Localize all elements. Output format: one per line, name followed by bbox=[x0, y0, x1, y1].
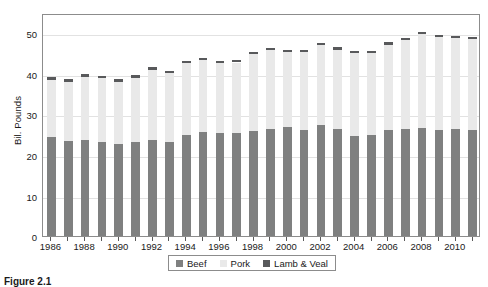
bar-segment-beef bbox=[300, 130, 309, 236]
bar-segment-beef bbox=[81, 140, 90, 236]
bar-segment-beef bbox=[418, 128, 427, 236]
bar-1995 bbox=[199, 58, 208, 236]
bar-segment-beef bbox=[266, 129, 275, 236]
bar-1993 bbox=[165, 71, 174, 236]
bar-segment-beef bbox=[98, 142, 107, 236]
bar-segment-beef bbox=[435, 130, 444, 236]
bar-segment-lamb-veal bbox=[114, 79, 123, 81]
bar-1992 bbox=[148, 67, 157, 236]
bar-segment-beef bbox=[131, 142, 140, 236]
bar-2004 bbox=[350, 51, 359, 236]
bar-1987 bbox=[64, 79, 73, 236]
bar-segment-pork bbox=[384, 45, 393, 130]
x-axis-tick-label: 1998 bbox=[242, 241, 263, 252]
bar-segment-pork bbox=[451, 38, 460, 129]
x-axis-tick-label: 2004 bbox=[343, 241, 364, 252]
plot-area bbox=[42, 14, 480, 237]
bar-2002 bbox=[317, 43, 326, 236]
legend-swatch-icon bbox=[220, 260, 227, 267]
bar-segment-beef bbox=[114, 144, 123, 236]
bar-segment-lamb-veal bbox=[148, 67, 157, 69]
x-axis-tick-labels: 1986198819901992199419961998200020022004… bbox=[42, 241, 480, 255]
bar-segment-lamb-veal bbox=[199, 58, 208, 60]
bar-segment-lamb-veal bbox=[232, 60, 241, 62]
bar-segment-pork bbox=[81, 77, 90, 141]
x-axis-tick-label: 1990 bbox=[107, 241, 128, 252]
bar-segment-lamb-veal bbox=[47, 77, 56, 80]
bar-segment-lamb-veal bbox=[81, 74, 90, 76]
bar-2003 bbox=[333, 47, 342, 236]
bar-segment-lamb-veal bbox=[418, 32, 427, 34]
bar-segment-lamb-veal bbox=[451, 36, 460, 38]
bar-segment-lamb-veal bbox=[165, 71, 174, 73]
legend-label: Beef bbox=[187, 258, 207, 269]
bar-1997 bbox=[232, 60, 241, 236]
bars-layer bbox=[43, 15, 479, 236]
y-axis-tick-label: 10 bbox=[1, 191, 37, 202]
bar-segment-lamb-veal bbox=[367, 51, 376, 53]
x-axis-tick-label: 1994 bbox=[175, 241, 196, 252]
chart-legend: BeefPorkLamb & Veal bbox=[168, 255, 336, 271]
bar-segment-beef bbox=[165, 142, 174, 236]
bar-1994 bbox=[182, 61, 191, 236]
bar-1996 bbox=[216, 61, 225, 236]
bar-segment-pork bbox=[64, 82, 73, 142]
bar-segment-pork bbox=[165, 73, 174, 142]
legend-item: Beef bbox=[176, 258, 207, 269]
bar-1988 bbox=[81, 74, 90, 236]
bar-segment-beef bbox=[350, 136, 359, 236]
bar-segment-pork bbox=[47, 80, 56, 137]
bar-segment-pork bbox=[300, 52, 309, 129]
bar-segment-pork bbox=[401, 40, 410, 129]
bar-segment-beef bbox=[384, 130, 393, 236]
figure-container: Bil. Pounds 01020304050 1986198819901992… bbox=[0, 0, 488, 287]
bar-2007 bbox=[401, 38, 410, 236]
bar-2001 bbox=[300, 50, 309, 236]
bar-segment-pork bbox=[199, 60, 208, 132]
legend-swatch-icon bbox=[263, 260, 270, 267]
bar-segment-pork bbox=[317, 45, 326, 125]
x-axis-tick-label: 2002 bbox=[309, 241, 330, 252]
legend-item: Lamb & Veal bbox=[263, 258, 328, 269]
x-axis-tick-label: 2010 bbox=[444, 241, 465, 252]
x-axis-tick-label: 2008 bbox=[410, 241, 431, 252]
legend-label: Lamb & Veal bbox=[274, 258, 328, 269]
bar-segment-pork bbox=[232, 63, 241, 133]
bar-segment-lamb-veal bbox=[401, 38, 410, 40]
bar-segment-beef bbox=[232, 133, 241, 236]
x-axis-tick-label: 1986 bbox=[40, 241, 61, 252]
bar-segment-pork bbox=[350, 53, 359, 136]
bar-1986 bbox=[47, 77, 56, 236]
bar-2011 bbox=[468, 37, 477, 236]
bar-segment-lamb-veal bbox=[64, 79, 73, 81]
x-axis-tick-label: 1988 bbox=[74, 241, 95, 252]
bar-2006 bbox=[384, 43, 393, 236]
bar-1990 bbox=[114, 79, 123, 236]
bar-segment-beef bbox=[249, 131, 258, 236]
bar-segment-lamb-veal bbox=[384, 42, 393, 44]
bar-segment-pork bbox=[182, 63, 191, 135]
bar-segment-beef bbox=[367, 135, 376, 236]
bar-segment-beef bbox=[468, 130, 477, 236]
x-axis-tick-label: 1996 bbox=[208, 241, 229, 252]
bar-1989 bbox=[98, 76, 107, 236]
bar-segment-lamb-veal bbox=[300, 50, 309, 52]
bar-segment-beef bbox=[401, 129, 410, 236]
bar-2008 bbox=[418, 32, 427, 236]
bar-segment-lamb-veal bbox=[350, 51, 359, 53]
bar-segment-beef bbox=[283, 127, 292, 236]
bar-2005 bbox=[367, 51, 376, 236]
bar-segment-beef bbox=[199, 132, 208, 236]
bar-segment-beef bbox=[182, 135, 191, 236]
x-axis-tick-label: 2006 bbox=[377, 241, 398, 252]
bar-segment-lamb-veal bbox=[468, 37, 477, 39]
bar-segment-beef bbox=[333, 129, 342, 236]
legend-item: Pork bbox=[220, 258, 251, 269]
bar-segment-pork bbox=[435, 37, 444, 130]
bar-segment-lamb-veal bbox=[216, 61, 225, 63]
y-axis-tick-label: 30 bbox=[1, 110, 37, 121]
bar-segment-lamb-veal bbox=[131, 75, 140, 77]
bar-segment-beef bbox=[216, 133, 225, 236]
bar-2000 bbox=[283, 50, 292, 236]
bar-2009 bbox=[435, 35, 444, 236]
